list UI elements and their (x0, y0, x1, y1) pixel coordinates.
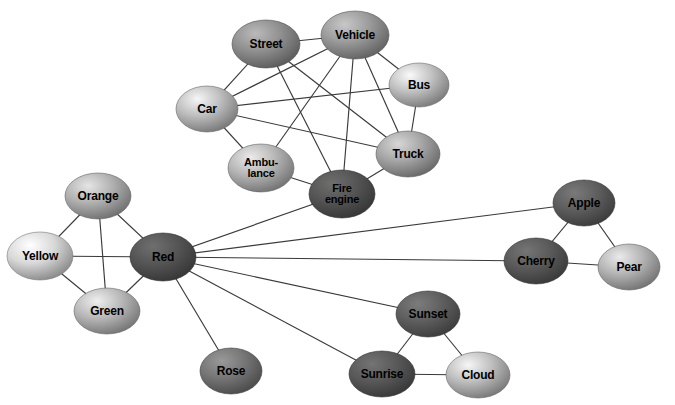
graph-node-apple[interactable] (553, 180, 615, 226)
graph-node-yellow[interactable] (7, 232, 73, 280)
graph-node-ambulance[interactable] (228, 144, 294, 192)
graph-svg-layer (0, 0, 675, 405)
graph-node-vehicle[interactable] (321, 11, 389, 59)
graph-node-cloud[interactable] (446, 352, 510, 398)
graph-node-rose[interactable] (200, 348, 262, 394)
graph-edge (207, 85, 419, 109)
graph-edge (163, 257, 382, 374)
graph-node-fire_engine[interactable] (309, 170, 375, 218)
graph-node-bus[interactable] (389, 63, 449, 107)
graph-node-pear[interactable] (598, 244, 660, 290)
network-graph: StreetVehicleBusCarAmbu- lanceFire engin… (0, 0, 675, 405)
graph-node-street[interactable] (232, 20, 300, 68)
graph-node-green[interactable] (74, 288, 140, 334)
graph-node-cherry[interactable] (504, 238, 568, 284)
graph-node-truck[interactable] (376, 131, 440, 177)
graph-node-sunset[interactable] (396, 291, 460, 337)
node-layer (7, 11, 660, 398)
graph-edge (163, 257, 536, 261)
graph-node-car[interactable] (176, 86, 238, 132)
graph-node-sunrise[interactable] (349, 351, 415, 397)
graph-node-red[interactable] (130, 233, 196, 281)
graph-edge (163, 257, 428, 314)
graph-node-orange[interactable] (65, 173, 131, 219)
